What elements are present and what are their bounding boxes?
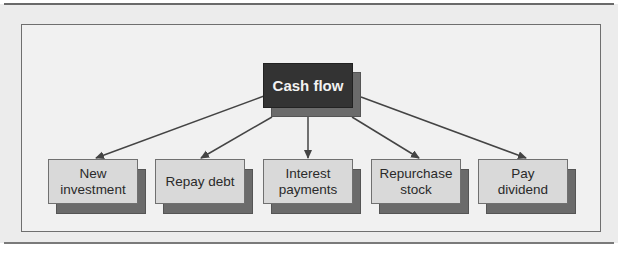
- arrow-to-new-investment: [96, 96, 264, 158]
- node-label: Repurchase stock: [371, 159, 461, 204]
- node-label: New investment: [48, 159, 138, 204]
- arrow-to-pay-dividend: [361, 97, 526, 158]
- arrow-to-repay-debt: [201, 117, 272, 158]
- node-label: Repay debt: [155, 159, 245, 204]
- node-label: Cash flow: [263, 63, 353, 108]
- node-label: Interest payments: [263, 159, 353, 204]
- node-label: Pay dividend: [478, 159, 568, 204]
- arrow-to-repurchase-stock: [352, 117, 419, 158]
- connector-arrows: [0, 0, 618, 261]
